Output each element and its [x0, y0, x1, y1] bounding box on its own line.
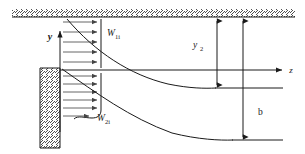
- z-axis: z: [60, 65, 293, 75]
- upper-profile-label-subscript: 1i: [115, 33, 120, 40]
- shear-layer-curves: [62, 19, 233, 140]
- dimension-b: b: [243, 21, 263, 137]
- top-hatched-wall: [12, 9, 295, 17]
- upper-shear-layer-curve: [67, 19, 216, 88]
- z-axis-label: z: [288, 65, 293, 75]
- left-hatched-wall: [40, 68, 60, 148]
- boundary-layer-diagram: z y W 1i W 2i: [0, 0, 305, 154]
- lower-profile-label-subscript: 2i: [105, 118, 110, 125]
- lower-velocity-profile: W 2i: [63, 73, 110, 125]
- y2-dimension-label: y: [192, 40, 198, 50]
- lower-shear-layer-curve: [62, 69, 233, 140]
- figure-container: z y W 1i W 2i: [0, 0, 305, 154]
- y-axis-label: y: [47, 31, 53, 42]
- left-wall-hatching: [40, 68, 60, 148]
- b-dimension-label: b: [258, 107, 263, 117]
- reference-lines: [215, 88, 283, 140]
- dimension-y2: y 2: [192, 21, 217, 85]
- top-wall-hatching: [12, 9, 295, 17]
- y2-dimension-label-subscript: 2: [200, 45, 203, 52]
